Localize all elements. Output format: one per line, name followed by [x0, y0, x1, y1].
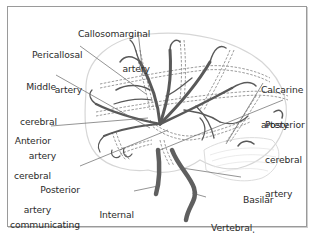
- label-callosomarginal-artery: Callosomarginal artery: [78, 5, 150, 86]
- label-internal-carotid-artery: Internal carotid artery: [96, 186, 134, 233]
- label-line: Posterior: [4, 184, 80, 196]
- label-line: Middle: [20, 81, 56, 93]
- label-line: Posterior: [265, 119, 305, 131]
- label-line: Calcarine: [261, 84, 303, 96]
- label-line: Internal: [96, 209, 134, 221]
- vertebral-vessel: [172, 150, 195, 220]
- label-line: Vertebral: [211, 222, 252, 233]
- label-line: communicating: [4, 219, 80, 231]
- label-line: cerebral: [265, 154, 305, 166]
- label-line: artery: [78, 63, 150, 75]
- label-line: Anterior: [8, 135, 51, 147]
- label-line: Callosomarginal: [78, 28, 150, 40]
- label-vertebral-artery: Vertebral artery: [211, 199, 252, 233]
- label-posterior-communicating-artery: Posterior communicating artery: [4, 161, 80, 233]
